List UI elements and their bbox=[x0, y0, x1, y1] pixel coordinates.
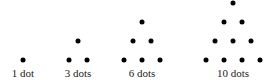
dot bbox=[21, 58, 26, 63]
dot bbox=[240, 58, 245, 63]
dot bbox=[222, 20, 227, 25]
dot bbox=[213, 39, 218, 44]
dot bbox=[67, 58, 72, 63]
dot bbox=[231, 39, 236, 44]
triangular-numbers-diagram: 1 dot 3 dots 6 dots 10 dots bbox=[0, 0, 273, 84]
dot bbox=[204, 58, 209, 63]
dot bbox=[149, 39, 154, 44]
dot bbox=[122, 58, 127, 63]
dot bbox=[240, 20, 245, 25]
group-label: 1 dot bbox=[12, 67, 34, 79]
dot bbox=[222, 58, 227, 63]
dot bbox=[140, 58, 145, 63]
dot bbox=[76, 39, 81, 44]
group-label: 6 dots bbox=[129, 67, 156, 79]
dot bbox=[231, 1, 236, 6]
group-label: 10 dots bbox=[217, 67, 249, 79]
dot bbox=[131, 39, 136, 44]
dot bbox=[140, 20, 145, 25]
dot bbox=[249, 39, 254, 44]
dot bbox=[158, 58, 163, 63]
dot bbox=[258, 58, 263, 63]
dot bbox=[85, 58, 90, 63]
group-label: 3 dots bbox=[65, 67, 92, 79]
